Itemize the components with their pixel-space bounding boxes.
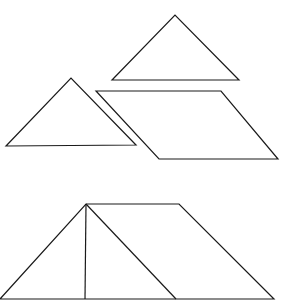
assembled-vertical-line — [85, 204, 86, 299]
parallelogram — [96, 91, 278, 159]
top-triangle — [112, 15, 239, 80]
assembled-trapezoid — [0, 204, 274, 299]
assembled-diagonal-line — [86, 204, 176, 299]
left-triangle — [6, 78, 136, 146]
diagram-canvas — [0, 0, 289, 300]
